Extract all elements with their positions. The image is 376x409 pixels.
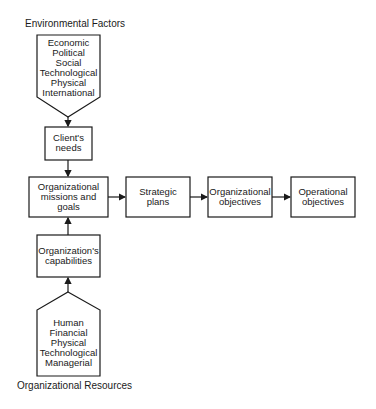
environmental-factors-title: Environmental Factors: [25, 18, 125, 29]
capabilities-label: Organization's capabilities: [35, 246, 102, 266]
organizational-resources-title: Organizational Resources: [17, 380, 132, 391]
org-objectives-label: Organizational objectives: [206, 187, 274, 207]
strategic-plans-label: Strategic plans: [126, 187, 190, 207]
missions-goals-label: Organizational missions and goals: [29, 182, 108, 212]
organizational-resources-list: Human Financial Physical Technological M…: [37, 318, 100, 368]
operational-objectives-label: Operational objectives: [291, 187, 355, 207]
clients-needs-label: Client's needs: [45, 133, 92, 153]
environmental-factors-list: Economic Political Social Technological …: [37, 38, 100, 98]
